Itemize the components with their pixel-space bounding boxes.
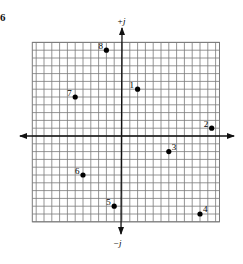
data-point-5: 5 bbox=[106, 197, 117, 209]
point-label: 5 bbox=[106, 197, 111, 207]
point-marker bbox=[104, 48, 109, 53]
data-point-6: 6 bbox=[75, 166, 86, 178]
point-label: 2 bbox=[204, 119, 209, 129]
point-marker bbox=[197, 211, 202, 216]
point-marker bbox=[135, 87, 140, 92]
negative-imag-label: −j bbox=[113, 238, 122, 248]
grid-border bbox=[32, 42, 219, 221]
positive-imag-label: +j bbox=[117, 16, 126, 26]
data-point-8: 8 bbox=[98, 41, 109, 53]
imag-axis-down-arrow-icon bbox=[118, 227, 124, 235]
real-axis-left-arrow-icon bbox=[19, 133, 27, 139]
data-point-7: 7 bbox=[67, 88, 78, 100]
point-label: 8 bbox=[98, 41, 103, 51]
data-point-1: 1 bbox=[130, 80, 141, 92]
point-marker bbox=[209, 126, 214, 131]
point-label: 1 bbox=[130, 80, 135, 90]
imag-axis-up-arrow-icon bbox=[119, 27, 125, 35]
complex-plane-plot: +j −j 12345678 bbox=[0, 0, 243, 264]
point-label: 6 bbox=[75, 166, 80, 176]
point-marker bbox=[166, 149, 171, 154]
data-point-2: 2 bbox=[204, 119, 215, 131]
grid bbox=[32, 42, 219, 221]
point-label: 3 bbox=[172, 142, 177, 152]
real-axis-right-arrow-icon bbox=[227, 133, 235, 139]
point-label: 7 bbox=[67, 88, 72, 98]
point-marker bbox=[112, 204, 117, 209]
point-marker bbox=[73, 94, 78, 99]
point-label: 4 bbox=[203, 204, 208, 214]
point-marker bbox=[80, 172, 85, 177]
